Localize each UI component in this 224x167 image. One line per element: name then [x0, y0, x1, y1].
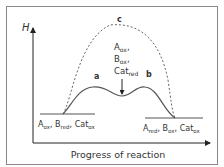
svg-text:Aox,: Aox,: [114, 42, 130, 53]
y-axis-label: H: [22, 22, 30, 33]
intermediate-label: Aox, Box, Catred: [114, 42, 139, 77]
curve-label-a: a: [94, 72, 99, 81]
frame: [7, 7, 218, 165]
reactants-label: Aox, Bred, Catox: [38, 120, 95, 130]
svg-text:Box,: Box,: [114, 54, 130, 65]
catalysed-curve: [63, 87, 175, 118]
svg-text:Catred: Catred: [114, 66, 139, 77]
curve-label-b: b: [146, 70, 152, 79]
energy-profile-diagram: H Progress of reaction c a b Aox, Box, C…: [0, 0, 224, 167]
curve-label-c: c: [117, 15, 122, 24]
products-label: Ared, Box, Catox: [143, 124, 200, 134]
x-axis-label: Progress of reaction: [71, 149, 166, 160]
